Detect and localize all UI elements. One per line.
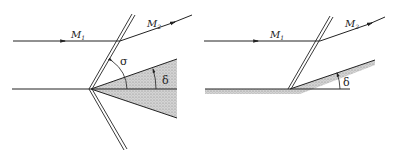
shock-wave-diagram: M1 M2 σ δ M1 M2 δ <box>0 0 394 158</box>
ramp-surface <box>290 60 375 89</box>
right-corner-diagram: M1 M2 δ <box>204 16 385 94</box>
diagram-canvas: M1 M2 σ δ M1 M2 δ <box>0 0 394 158</box>
delta-label: δ <box>162 74 169 87</box>
m2-label: M2 <box>146 18 161 30</box>
m2-label-2: M2 <box>344 18 359 30</box>
left-wedge-diagram: M1 M2 σ δ <box>12 14 192 150</box>
m1-label: M1 <box>70 29 85 41</box>
sigma-label: σ <box>120 55 128 68</box>
delta-label-2: δ <box>343 76 350 89</box>
ground-hatch <box>205 89 290 94</box>
m1-label-2: M1 <box>269 29 284 41</box>
